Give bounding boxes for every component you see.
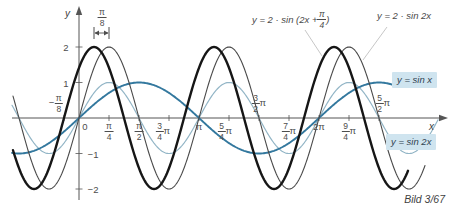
x-tick-label: 94π (342, 122, 356, 141)
pi-over-4-fraction: π 4 (317, 10, 326, 29)
y-tick-label: 1 (63, 77, 68, 88)
phase-gap-right-arrow-icon (104, 31, 109, 36)
x-tick-label: 32π (252, 94, 266, 113)
figure-caption: Bild 3/67 (404, 193, 445, 205)
x-tick-label: 2π (313, 122, 325, 132)
y-axis-arrow-icon (76, 6, 82, 15)
legend-callout-line (305, 30, 322, 56)
y-tick-label: −2 (88, 184, 99, 195)
x-tick-label: π2 (135, 122, 144, 141)
x-tick-label: π (196, 122, 203, 132)
legend-2sin2x-plus-pi4: y = 2 · sin (2x + π 4 ) (252, 10, 329, 29)
y-tick-label: 2 (63, 42, 68, 53)
x-tick-label: 0 (82, 122, 87, 132)
legend-sinx: y = sin x (392, 72, 437, 88)
phase-gap-left-arrow-icon (95, 31, 100, 36)
x-tick-label: π4 (105, 122, 114, 141)
x-tick-label: −π8 (49, 94, 63, 113)
x-tick-label: 54π (218, 122, 232, 141)
x-axis-label: x (429, 121, 434, 132)
x-tick-label: 52π (376, 94, 390, 113)
x-tick-label: 34π (156, 122, 170, 141)
y-tick-label: −1 (88, 148, 99, 159)
legend-2sin2x: y = 2 · sin 2x (377, 11, 431, 21)
legend-sin2x: y = sin 2x (386, 134, 436, 150)
x-axis-arrow-icon (439, 115, 448, 121)
legend-callout-line (363, 27, 387, 60)
phase-shift-fraction: π 8 (98, 8, 107, 27)
figure-trig-curves: y x −π80π4π234ππ54π32π74π2π94π52π21−1−2 … (0, 0, 451, 214)
x-tick-label: 74π (282, 122, 296, 141)
phase-shift-annotation: π 8 (98, 8, 107, 27)
y-axis-label: y (65, 8, 70, 19)
